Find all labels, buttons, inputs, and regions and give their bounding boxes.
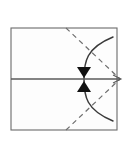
geometric-diagram-svg [0, 0, 135, 153]
figure-container: A rectangle divided by a horizontal midl… [0, 0, 135, 153]
